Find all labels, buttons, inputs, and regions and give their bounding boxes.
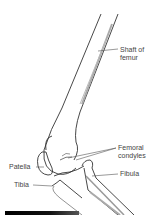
label-tibia: Tibia — [14, 181, 29, 189]
label-fibula: Fibula — [120, 170, 139, 178]
tibia — [52, 166, 120, 215]
femoral-condyles — [46, 136, 72, 160]
label-shaft-of-femur: Shaft of femur — [120, 46, 144, 62]
label-femoral-condyles: Femoral condyles — [118, 144, 146, 160]
femur — [44, 14, 118, 174]
bottom-bar — [5, 211, 79, 215]
label-patella: Patella — [9, 163, 30, 171]
